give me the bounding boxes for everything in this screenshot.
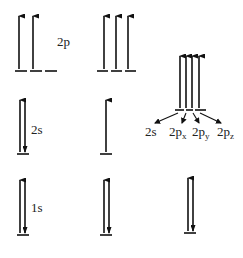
hybrid-sp3-level (175, 56, 206, 110)
label-1s: 1s (31, 200, 43, 215)
excited-state-2p-level (97, 16, 136, 71)
label-2p: 2p (57, 34, 70, 49)
ground-state-2p-level (15, 16, 57, 71)
hybrid-1s-level (184, 178, 196, 233)
ground-state-1s-level (17, 180, 29, 235)
pointer-arrow-icon (182, 113, 186, 123)
excited-state-2s-level (100, 100, 112, 154)
hybrid-label-2pz: 2pz (217, 124, 234, 141)
pointer-arrow-icon (200, 113, 221, 123)
hybrid-pointer-arrows (155, 113, 221, 123)
hybrid-label-2py: 2py (192, 124, 210, 141)
excited-state-1s-level (100, 180, 112, 235)
hybrid-label-2px: 2px (169, 124, 187, 141)
hybrid-label-2s: 2s (145, 124, 157, 139)
pointer-arrow-icon (155, 113, 178, 123)
label-2s: 2s (31, 122, 43, 137)
ground-state-2s-level (17, 100, 29, 154)
pointer-arrow-icon (193, 113, 199, 123)
orbital-diagram: 2p 2s 1s (0, 0, 243, 258)
